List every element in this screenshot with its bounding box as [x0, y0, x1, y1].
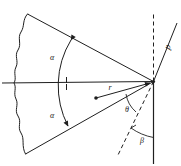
alpha-lower-label: α	[50, 111, 55, 120]
break-line-wavy	[14, 14, 28, 154]
beta-label: β	[139, 136, 144, 145]
radius-vector-r	[96, 83, 150, 98]
wedge-lower-edge	[26, 82, 154, 155]
wedge-upper-edge	[28, 14, 154, 82]
vertex-point	[152, 80, 155, 83]
angular-span-arc	[58, 40, 71, 126]
r-label: r	[108, 83, 112, 92]
alpha-upper-label: α	[50, 53, 55, 62]
dashed-diagonal-line	[118, 82, 154, 156]
p-ray-line	[154, 23, 178, 82]
geometry-diagram: α α r p θ β	[0, 0, 181, 166]
theta-label: θ	[125, 105, 129, 114]
diagram-canvas: α α r p θ β	[0, 0, 181, 166]
axis-horizontal	[2, 82, 154, 84]
p-label: p	[161, 42, 173, 51]
